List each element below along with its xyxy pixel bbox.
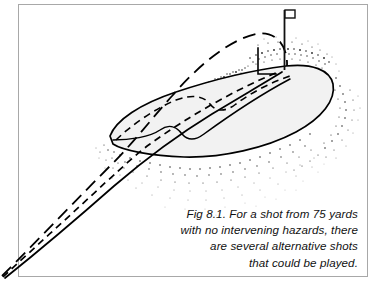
caption-line-3: are several alternative shots — [128, 238, 358, 254]
figure-caption: Fig 8.1. For a shot from 75 yards with n… — [128, 206, 358, 271]
caption-line-4: that could be played. — [128, 255, 358, 271]
caption-line-2: with no intervening hazards, there — [128, 222, 358, 238]
green-surface — [110, 65, 333, 157]
figure-container: Fig 8.1. For a shot from 75 yards with n… — [0, 0, 374, 286]
caption-line-1: Fig 8.1. For a shot from 75 yards — [128, 206, 358, 222]
flag-icon — [285, 10, 295, 18]
